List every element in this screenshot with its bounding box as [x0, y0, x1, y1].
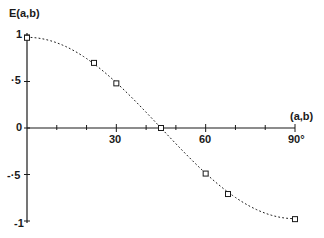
data-point-marker — [226, 192, 231, 197]
y-tick-label-0: 0 — [16, 122, 22, 133]
y-tick-label-neg1: -1 — [14, 218, 24, 229]
data-point-marker — [159, 126, 164, 131]
data-point-marker — [114, 81, 119, 86]
y-tick-label-neg0.5: -·5 — [7, 170, 20, 181]
x-tick-label-30: 30 — [109, 134, 121, 145]
correlation-chart — [0, 0, 324, 238]
x-tick-label-90: 90° — [288, 134, 305, 145]
data-point-marker — [293, 217, 298, 222]
data-point-marker — [203, 171, 208, 176]
x-tick-label-60: 60 — [199, 134, 211, 145]
y-tick-label-1: 1 — [16, 29, 22, 40]
data-point-marker — [92, 60, 97, 65]
y-tick-label-0.5: ·5 — [11, 75, 21, 86]
y-axis-title: E(a,b) — [9, 8, 40, 19]
x-axis-title: (a,b) — [290, 111, 313, 122]
data-point-marker — [25, 35, 30, 40]
